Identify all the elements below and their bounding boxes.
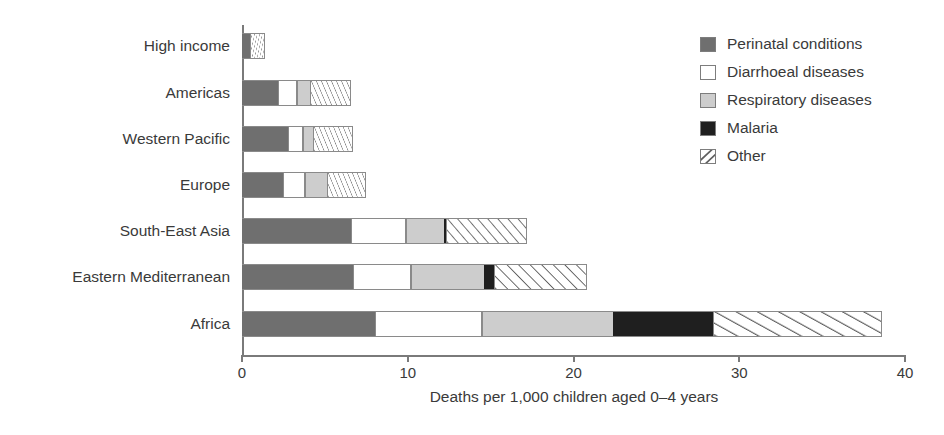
- segment-diarrhoeal-diseases-south-east-asia: [351, 218, 406, 244]
- category-label-europe: Europe: [180, 177, 230, 193]
- segment-perinatal-conditions-high-income: [242, 33, 250, 59]
- segment-respiratory-diseases-eastern-mediterranean: [411, 264, 484, 290]
- segment-malaria-eastern-mediterranean: [484, 264, 494, 290]
- segment-other-western-pacific: [313, 126, 353, 152]
- legend-label: Respiratory diseases: [727, 92, 872, 108]
- segment-perinatal-conditions-eastern-mediterranean: [242, 264, 353, 290]
- x-tick-40: [904, 355, 906, 362]
- legend-label: Diarrhoeal diseases: [727, 64, 864, 80]
- x-axis-title: Deaths per 1,000 children aged 0–4 years: [242, 388, 906, 406]
- bar-europe: [242, 172, 366, 198]
- chart-figure: 010203040 High incomeAmericasWestern Pac…: [0, 0, 944, 435]
- category-label-africa: Africa: [190, 316, 230, 332]
- legend-label: Other: [727, 148, 766, 164]
- bar-south-east-asia: [242, 218, 527, 244]
- x-tick-label-20: 20: [565, 364, 582, 381]
- category-label-south-east-asia: South-East Asia: [120, 223, 230, 239]
- diagonal-hatch-fill-icon: [700, 149, 716, 164]
- segment-respiratory-diseases-western-pacific: [303, 126, 313, 152]
- x-tick-10: [407, 355, 409, 362]
- category-label-western-pacific: Western Pacific: [123, 131, 230, 147]
- segment-perinatal-conditions-americas: [242, 80, 278, 106]
- segment-respiratory-diseases-south-east-asia: [406, 218, 444, 244]
- x-tick-20: [573, 355, 575, 362]
- segment-other-americas: [310, 80, 351, 106]
- segment-respiratory-diseases-africa: [482, 311, 613, 337]
- category-label-high-income: High income: [144, 38, 230, 54]
- x-tick-label-40: 40: [897, 364, 914, 381]
- category-label-americas: Americas: [165, 85, 230, 101]
- bar-americas: [242, 80, 351, 106]
- segment-diarrhoeal-diseases-western-pacific: [288, 126, 303, 152]
- white-fill-icon: [700, 65, 716, 80]
- legend-item-respiratory-diseases[interactable]: Respiratory diseases: [700, 86, 872, 114]
- segment-respiratory-diseases-americas: [297, 80, 310, 106]
- segment-other-south-east-asia: [446, 218, 527, 244]
- segment-diarrhoeal-diseases-eastern-mediterranean: [353, 264, 411, 290]
- bar-africa: [242, 311, 882, 337]
- bar-high-income: [242, 33, 265, 59]
- x-tick-30: [738, 355, 740, 362]
- black-fill-icon: [700, 121, 716, 136]
- segment-diarrhoeal-diseases-americas: [278, 80, 296, 106]
- legend-label: Malaria: [727, 120, 778, 136]
- legend-item-other[interactable]: Other: [700, 142, 872, 170]
- bar-eastern-mediterranean: [242, 264, 587, 290]
- segment-respiratory-diseases-europe: [305, 172, 327, 198]
- category-label-eastern-mediterranean: Eastern Mediterranean: [72, 269, 230, 285]
- legend: Perinatal conditionsDiarrhoeal diseasesR…: [700, 30, 872, 170]
- light-gray-fill-icon: [700, 93, 716, 108]
- segment-perinatal-conditions-europe: [242, 172, 283, 198]
- dark-gray-fill-icon: [700, 37, 716, 52]
- legend-item-perinatal-conditions[interactable]: Perinatal conditions: [700, 30, 872, 58]
- bar-western-pacific: [242, 126, 353, 152]
- x-tick-0: [241, 355, 243, 362]
- segment-malaria-africa: [613, 311, 712, 337]
- x-tick-label-0: 0: [238, 364, 246, 381]
- legend-item-malaria[interactable]: Malaria: [700, 114, 872, 142]
- segment-diarrhoeal-diseases-europe: [283, 172, 305, 198]
- segment-perinatal-conditions-africa: [242, 311, 375, 337]
- legend-label: Perinatal conditions: [727, 36, 862, 52]
- x-tick-label-30: 30: [731, 364, 748, 381]
- segment-other-eastern-mediterranean: [494, 264, 587, 290]
- segment-diarrhoeal-diseases-africa: [375, 311, 483, 337]
- segment-other-high-income: [250, 33, 265, 59]
- segment-perinatal-conditions-south-east-asia: [242, 218, 351, 244]
- segment-other-africa: [713, 311, 882, 337]
- legend-item-diarrhoeal-diseases[interactable]: Diarrhoeal diseases: [700, 58, 872, 86]
- x-tick-label-10: 10: [399, 364, 416, 381]
- segment-other-europe: [327, 172, 367, 198]
- segment-perinatal-conditions-western-pacific: [242, 126, 288, 152]
